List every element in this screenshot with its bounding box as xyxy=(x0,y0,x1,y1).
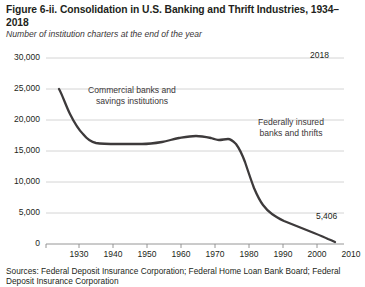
end-value-label: 5,406 xyxy=(316,211,337,221)
source-note-line1: Sources: Federal Deposit Insurance Corpo… xyxy=(6,266,354,276)
source-note-line2: Deposit Insurance Corporation xyxy=(6,276,354,286)
x-axis xyxy=(46,244,344,248)
y-tick-label-5000: 5,000 xyxy=(0,208,40,217)
page-title: Figure 6-ii. Consolidation in U.S. Banki… xyxy=(6,3,350,29)
y-tick-label-25000: 25,000 xyxy=(0,84,40,93)
y-tick-label-20000: 20,000 xyxy=(0,115,40,124)
y-tick-label-10000: 10,000 xyxy=(0,177,40,186)
annotation-federally-insured-line2: banks and thrifts xyxy=(258,128,324,139)
source-note: Sources: Federal Deposit Insurance Corpo… xyxy=(6,266,354,287)
y-tick-label-0: 0 xyxy=(0,239,40,248)
end-year-label: 2018 xyxy=(310,50,329,60)
annotation-federally-insured: Federally insured banks and thrifts xyxy=(258,117,324,139)
data-series-line xyxy=(59,89,335,242)
y-tick-label-30000: 30,000 xyxy=(0,53,40,62)
annotation-commercial-banks-line2: savings institutions xyxy=(88,96,176,107)
y-tick-label-15000: 15,000 xyxy=(0,146,40,155)
line-chart-svg xyxy=(0,44,354,252)
figure-subtitle: Number of institution charters at the en… xyxy=(6,29,350,40)
annotation-commercial-banks: Commercial banks and savings institution… xyxy=(88,85,176,107)
annotation-commercial-banks-line1: Commercial banks and xyxy=(88,85,176,96)
chart-plot-area: 30,000 25,000 20,000 15,000 10,000 5,000… xyxy=(0,44,354,252)
annotation-federally-insured-line1: Federally insured xyxy=(258,117,324,128)
x-tick-label-2010: 2010 xyxy=(329,250,365,259)
